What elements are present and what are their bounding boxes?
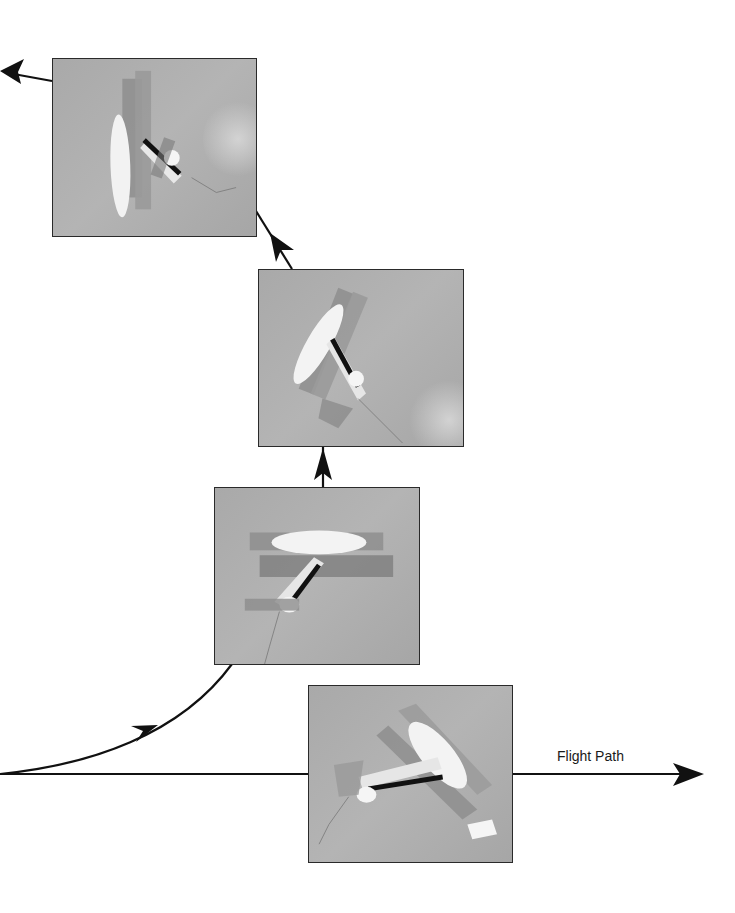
photo-1-biplane-vertical [52,58,257,237]
photo-4-biplane-level-flight [308,685,513,863]
biplane-icon [53,59,256,236]
flight-path-label: Flight Path [557,748,624,764]
biplane-icon [215,488,419,664]
exit-arrowhead-icon [0,59,24,84]
pull-up-curve-line [0,664,232,774]
biplane-icon [259,270,463,446]
photo-2-biplane-climbing [258,269,464,447]
diagram-canvas: Flight Path [0,0,735,913]
diagonal-arrowhead-icon [270,233,294,262]
biplane-icon [309,686,512,862]
photo-3-biplane-pulling-up [214,487,420,665]
